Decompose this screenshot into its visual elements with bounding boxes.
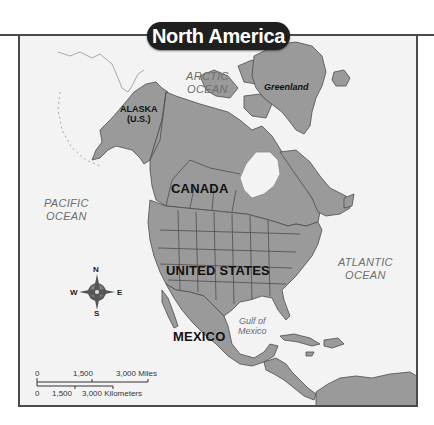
- map-title: North America: [147, 22, 290, 50]
- siberia-coast: [58, 52, 144, 92]
- compass-north: N: [93, 265, 99, 274]
- canada-label: CANADA: [171, 181, 229, 196]
- united-states-label: UNITED STATES: [166, 263, 270, 278]
- cuba: [280, 334, 320, 346]
- scale-miles-1500: 1,500: [73, 369, 93, 378]
- compass-south: S: [94, 309, 99, 318]
- alaska-line2: (U.S.): [120, 114, 158, 124]
- scale-miles-0: 0: [35, 369, 39, 378]
- gulf-of-mexico-label: Gulf of Mexico: [238, 316, 267, 336]
- atlantic-ocean-label: ATLANTIC OCEAN: [338, 256, 393, 282]
- central-america: [264, 358, 316, 400]
- alaska-label: ALASKA (U.S.): [120, 104, 158, 124]
- compass-east: E: [117, 288, 122, 297]
- scale-bars: [37, 378, 148, 389]
- pacific-ocean-line2: OCEAN: [44, 210, 89, 223]
- scale-km-0: 0: [35, 389, 39, 398]
- alaska-line1: ALASKA: [120, 104, 158, 114]
- south-america: [316, 372, 420, 410]
- hispaniola: [324, 338, 344, 348]
- pacific-ocean-label: PACIFIC OCEAN: [44, 197, 89, 223]
- pacific-ocean-line1: PACIFIC: [44, 197, 89, 210]
- arctic-ocean-line2: OCEAN: [186, 83, 229, 96]
- jamaica: [306, 352, 314, 356]
- atlantic-ocean-line1: ATLANTIC: [338, 256, 393, 269]
- gulf-line1: Gulf of: [238, 316, 267, 326]
- arctic-ocean-line1: ARCTIC: [186, 70, 229, 83]
- scale-km-1500: 1,500: [52, 389, 72, 398]
- compass-west: W: [70, 288, 78, 297]
- atlantic-ocean-line2: OCEAN: [338, 269, 393, 282]
- arctic-ocean-label: ARCTIC OCEAN: [186, 70, 229, 96]
- greenland-label: Greenland: [264, 82, 309, 92]
- compass-rose: [79, 274, 115, 310]
- iceland-shape: [332, 70, 350, 86]
- scale-miles-3000: 3,000 Miles: [116, 369, 157, 378]
- mexico-label: MEXICO: [173, 329, 225, 344]
- gulf-line2: Mexico: [238, 326, 267, 336]
- scale-km-3000: 3,000 Kilometers: [82, 389, 142, 398]
